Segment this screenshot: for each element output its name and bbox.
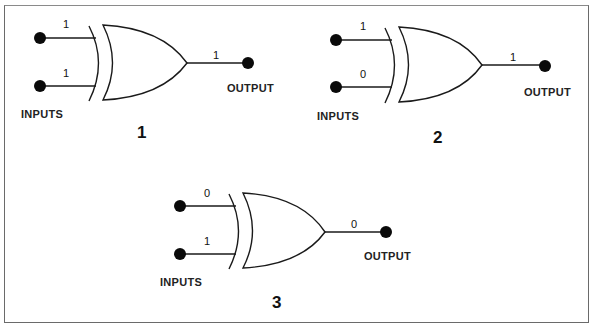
gate-1-output-label: OUTPUT <box>227 83 274 94</box>
gate-1-inputs-label: INPUTS <box>21 109 63 120</box>
gate-2-number: 2 <box>433 129 442 146</box>
xor-gate-3 <box>174 193 392 269</box>
gate-1-gate-body <box>103 25 187 100</box>
gate-3-xor-input-arc <box>229 194 239 269</box>
gate-2-input-b-value: 0 <box>360 69 366 80</box>
gate-2-gate-body <box>399 27 482 102</box>
gate-2-input-a-value: 1 <box>360 21 366 32</box>
gate-3-input-a-value: 0 <box>204 188 210 199</box>
gate-1-input-b-terminal <box>34 80 46 92</box>
gate-3-output-value: 0 <box>351 219 357 230</box>
gate-1-input-b-value: 1 <box>63 68 69 79</box>
gate-1-input-a-value: 1 <box>63 19 69 30</box>
gate-1-number: 1 <box>137 124 146 141</box>
gate-1-input-a-terminal <box>34 32 46 44</box>
gate-2-input-b-terminal <box>330 81 342 93</box>
gate-3-number: 3 <box>272 294 281 311</box>
gate-3-output-label: OUTPUT <box>364 251 411 262</box>
gate-2-inputs-label: INPUTS <box>317 111 359 122</box>
gate-3-gate-body <box>243 193 325 268</box>
gate-3-input-b-terminal <box>174 248 186 260</box>
gate-2-input-a-terminal <box>330 34 342 46</box>
gate-2-xor-input-arc <box>385 28 395 103</box>
gate-3-input-b-value: 1 <box>204 236 210 247</box>
gate-3-input-a-terminal <box>174 200 186 212</box>
gate-1-output-terminal <box>242 57 254 69</box>
xor-gate-2 <box>330 27 551 103</box>
xor-gate-1 <box>34 25 254 101</box>
gate-2-output-value: 1 <box>510 52 516 63</box>
gate-1-output-value: 1 <box>213 50 219 61</box>
gate-3-output-terminal <box>380 226 392 238</box>
gates-canvas <box>0 0 593 326</box>
gate-2-output-label: OUTPUT <box>524 87 571 98</box>
gate-1-xor-input-arc <box>89 26 99 101</box>
gate-3-inputs-label: INPUTS <box>160 277 202 288</box>
gate-2-output-terminal <box>539 60 551 72</box>
